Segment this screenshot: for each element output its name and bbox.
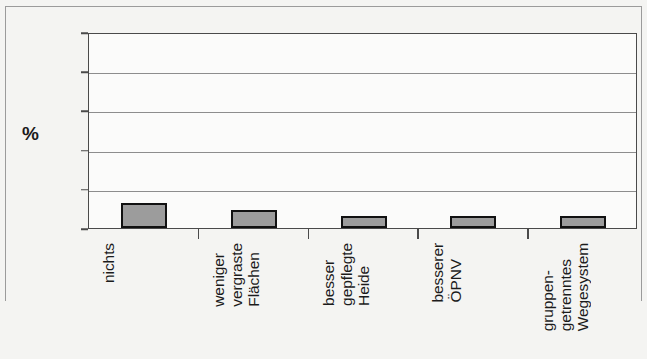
gridline — [89, 152, 636, 153]
gridline — [89, 191, 636, 192]
plot-area — [88, 33, 637, 229]
x-axis-tick-mark — [417, 229, 419, 239]
y-axis-tick-mark — [81, 150, 88, 152]
gridline — [89, 73, 636, 74]
bar — [341, 216, 387, 228]
y-axis-tick-mark — [81, 228, 88, 230]
x-axis-category-label: gruppen- getrenntes Wegesystem — [539, 243, 647, 331]
y-axis-tick-mark — [81, 189, 88, 191]
y-axis-title: % — [22, 123, 39, 145]
y-axis-tick-mark — [81, 32, 88, 34]
bar — [450, 216, 496, 228]
x-axis-tick-mark — [198, 229, 200, 239]
bar — [560, 216, 606, 228]
bar — [121, 203, 167, 228]
y-axis-tick-mark — [81, 111, 88, 113]
x-axis-tick-mark — [527, 229, 529, 239]
bar — [231, 210, 277, 228]
x-axis-category-label: besserer ÖPNV — [429, 243, 544, 303]
chart-figure: % 020406080100 nichtsweniger vergraste F… — [0, 0, 647, 359]
x-axis-category-label: nichts — [100, 243, 215, 283]
y-axis-tick-mark — [81, 71, 88, 73]
gridline — [89, 112, 636, 113]
x-axis-category-label: besser gepflegte Heide — [320, 243, 435, 306]
x-axis-category-label: weniger vergraste Flächen — [210, 243, 325, 307]
x-axis-tick-mark — [308, 229, 310, 239]
